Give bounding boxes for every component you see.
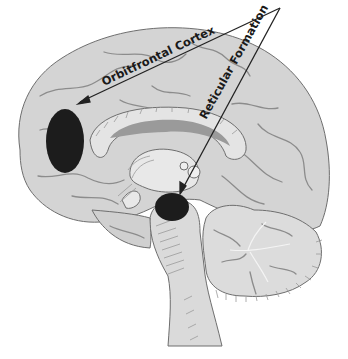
reticular-formation-region [155,193,189,221]
orbitfrontal-cortex-region [46,109,84,173]
brain-diagram: Orbitfrontal Cortex Reticular Formation [0,0,348,359]
temporal-lobe [92,210,151,248]
